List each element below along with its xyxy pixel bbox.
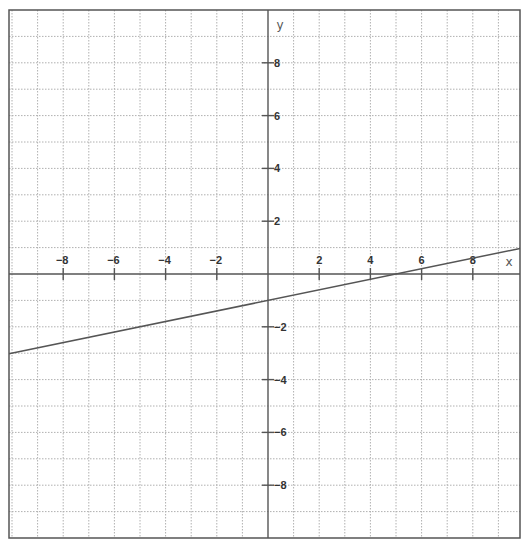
y-tick-label: −6 [274, 426, 287, 438]
x-tick-label: −2 [210, 254, 223, 266]
x-tick-label: −4 [158, 254, 171, 266]
y-tick-label: −8 [274, 479, 287, 491]
x-tick-label: −6 [107, 254, 120, 266]
y-tick-label: −2 [274, 321, 287, 333]
x-axis-label: x [505, 255, 512, 269]
y-tick-label: −4 [274, 374, 287, 386]
y-tick-label: 2 [274, 215, 280, 227]
y-axis-label: y [276, 18, 283, 32]
coordinate-plane: −8−6−4−224688642−2−4−6−8 x y [0, 0, 523, 543]
x-tick-label: −8 [56, 254, 69, 266]
x-tick-label: 2 [316, 254, 322, 266]
x-tick-label: 4 [367, 254, 374, 266]
y-tick-label: 4 [274, 162, 281, 174]
y-tick-label: 6 [274, 110, 280, 122]
x-tick-label: 6 [419, 254, 425, 266]
x-tick-label: 8 [470, 254, 476, 266]
y-tick-label: 8 [274, 57, 280, 69]
